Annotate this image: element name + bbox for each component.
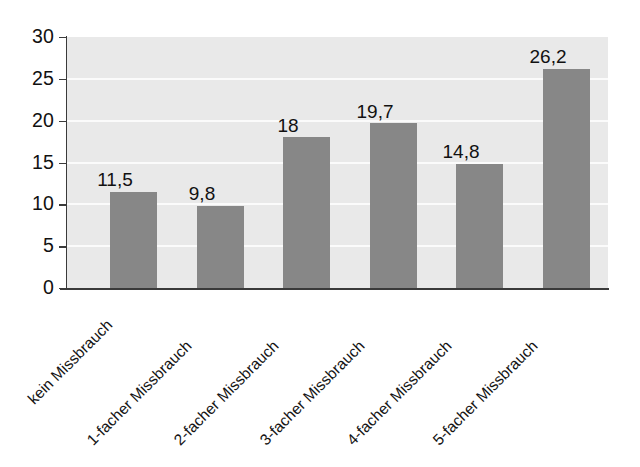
y-tick-mark-5 [59,246,67,247]
y-tick-mark-10 [59,204,67,205]
y-axis-tick-label: 25 [32,69,54,89]
gridline-25 [67,78,608,80]
bar-value-label: 19,7 [345,102,405,121]
bar-5-facher-missbrauch [543,69,590,288]
y-axis-tick-label: 20 [32,111,54,131]
y-axis-tick-label: 0 [43,278,54,298]
gridline-20 [67,120,608,122]
bar-2-facher-missbrauch [283,137,330,288]
y-tick-mark-20 [59,121,67,122]
bar-4-facher-missbrauch [456,164,503,288]
bar-value-label: 18 [258,116,318,135]
bar-1-facher-missbrauch [197,206,244,288]
y-tick-mark-30 [59,37,67,38]
x-axis-line [60,288,609,290]
y-axis-tick-label: 10 [32,194,54,214]
bar-chart-figure: 30 25 20 15 10 5 0 11,5 9,8 18 19,7 14,8… [0,0,640,467]
bar-3-facher-missbrauch [370,123,417,288]
y-tick-mark-0 [59,288,67,289]
y-axis-tick-label: 30 [32,27,54,47]
y-tick-mark-25 [59,79,67,80]
bar-value-label: 9,8 [172,184,232,203]
x-axis-category-label: kein Missbrauch [25,317,115,407]
bar-kein-missbrauch [110,192,157,288]
y-axis-tick-label: 15 [32,153,54,173]
bar-value-label: 14,8 [431,142,491,161]
y-axis-tick-label: 5 [43,236,54,256]
y-tick-mark-15 [59,163,67,164]
bar-value-label: 11,5 [85,170,145,189]
bar-value-label: 26,2 [518,47,578,66]
gridline-15 [67,162,608,164]
plot-area [67,37,608,288]
